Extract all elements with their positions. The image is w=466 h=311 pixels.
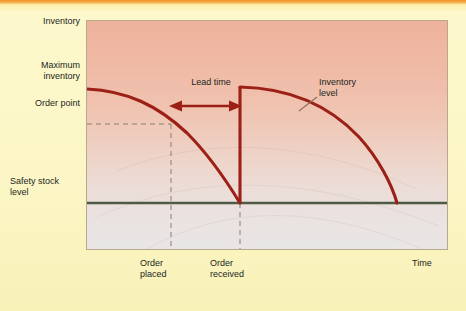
annotation-inventory-level: Inventory level bbox=[319, 77, 381, 99]
lead-time-arrow bbox=[169, 101, 242, 112]
annotation-lead-time: Lead time bbox=[175, 77, 247, 88]
inventory-cycle-figure: Inventory Maximum inventory Order point … bbox=[0, 0, 466, 311]
x-tick-label-order-received: Order received bbox=[210, 258, 280, 280]
y-axis-title: Inventory bbox=[12, 16, 80, 27]
x-axis-title: Time bbox=[412, 258, 452, 269]
plot-graphics bbox=[87, 21, 448, 250]
y-tick-label-maximum-inventory: Maximum inventory bbox=[8, 60, 80, 82]
accent-strip-fade bbox=[0, 5, 466, 11]
plot-area: Lead time Inventory level bbox=[86, 20, 448, 250]
y-tick-label-safety-stock-level: Safety stock level bbox=[10, 176, 80, 198]
y-tick-label-order-point: Order point bbox=[4, 98, 80, 109]
background-watermark-arcs bbox=[97, 147, 439, 250]
x-tick-label-order-placed: Order placed bbox=[140, 258, 202, 280]
